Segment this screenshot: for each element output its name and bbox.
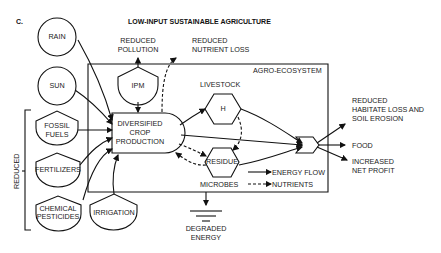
ipm-node: IPM — [118, 67, 158, 105]
energy-flow-legend-label: ENERGY FLOW — [272, 168, 325, 177]
reduced-habitat-loss-label-2: HABITATE LOSS AND — [352, 105, 424, 114]
ipm-label: IPM — [132, 81, 145, 90]
fossil-label: FOSSIL — [44, 121, 70, 130]
pesticides-label: PESTICIDES — [37, 212, 80, 221]
reduced-habitat-loss-label-1: REDUCED — [352, 96, 388, 105]
livestock-herbivore-node: H — [205, 94, 241, 124]
panel-label: C. — [16, 18, 23, 25]
fuels-label: FUELS — [45, 130, 68, 139]
microbes-label: MICROBES — [200, 180, 239, 189]
irrigation-node: IRRIGATION — [90, 194, 137, 230]
increased-net-profit-label-1: INCREASED — [352, 157, 394, 166]
rain-label: RAIN — [48, 32, 65, 41]
reduced-pollution-label-2: POLLUTION — [118, 45, 159, 54]
diversified-crop-production-node: DIVERSIFIED CROP PRODUCTION — [112, 113, 185, 153]
sun-label: SUN — [49, 81, 64, 90]
reduced-pollution-label-1: REDUCED — [120, 36, 156, 45]
figure-title: LOW-INPUT SUSTAINABLE AGRICULTURE — [128, 18, 271, 25]
fossil-fuels-node: FOSSIL FUELS — [36, 111, 78, 145]
agro-ecosystem-label: AGRO-ECOSYSTEM — [253, 66, 322, 75]
ground-symbol-icon — [190, 211, 222, 221]
increased-net-profit-label-2: NET PROFIT — [352, 166, 395, 175]
reduced-label: REDUCED — [12, 153, 21, 189]
food-label: FOOD — [352, 141, 373, 150]
sun-node: SUN — [38, 67, 76, 105]
chemical-pesticides-node: CHEMICAL PESTICIDES — [36, 196, 81, 231]
agroecosystem-diagram: C. LOW-INPUT SUSTAINABLE AGRICULTURE AGR… — [0, 0, 441, 253]
herbivore-label: H — [220, 104, 225, 113]
reduced-nutrient-loss-label-2: NUTRIENT LOSS — [192, 45, 250, 54]
livestock-label: LIVESTOCK — [200, 80, 240, 89]
degraded-energy-label-2: ENERGY — [191, 233, 222, 242]
legend: ENERGY FLOW NUTRIENTS — [248, 168, 325, 189]
residue-label: RESIDUE — [206, 157, 238, 166]
crop-label-2: CROP — [130, 128, 151, 137]
irrigation-label: IRRIGATION — [93, 208, 134, 217]
reduced-habitat-loss-label-3: SOIL EROSION — [352, 114, 403, 123]
reduced-bracket — [25, 110, 31, 230]
fertilizers-label: FERTILIZERS — [35, 165, 81, 174]
nutrients-legend-label: NUTRIENTS — [272, 180, 313, 189]
crop-label-3: PRODUCTION — [116, 137, 164, 146]
degraded-energy-label-1: DEGRADED — [186, 224, 227, 233]
crop-label-1: DIVERSIFIED — [117, 119, 162, 128]
residue-node: RESIDUE — [205, 148, 239, 177]
reduced-nutrient-loss-label-1: REDUCED — [192, 36, 228, 45]
rain-node: RAIN — [38, 18, 76, 56]
fertilizers-node: FERTILIZERS — [35, 153, 81, 187]
